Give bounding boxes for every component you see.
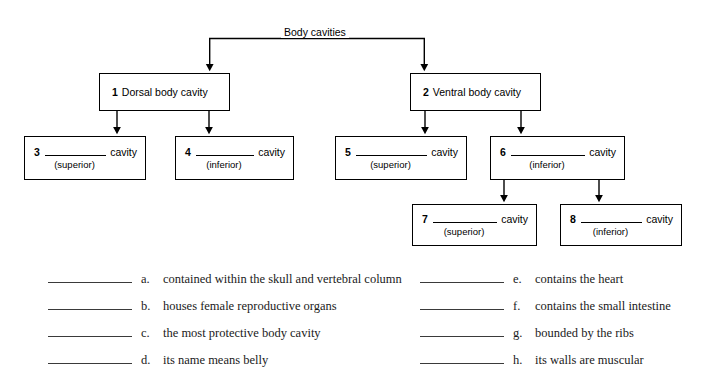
node-1-number: 1	[112, 86, 118, 98]
node-3-cavity-word: cavity	[110, 146, 137, 158]
answer-column-left: a. contained within the skull and verteb…	[48, 272, 414, 380]
node-4-hint: (inferior)	[185, 159, 285, 170]
answer-a-text: contained within the skull and vertebral…	[163, 272, 414, 287]
node-7-hint: (superior)	[422, 226, 528, 237]
node-7-cavity-word: cavity	[501, 213, 528, 225]
diagram-node-6[interactable]: 6cavity (inferior)	[490, 136, 625, 180]
node-7-blank[interactable]	[433, 213, 497, 223]
node-7-answer-line: 7cavity	[422, 213, 528, 225]
diagram-node-8[interactable]: 8cavity (inferior)	[560, 204, 682, 246]
answer-b-text: houses female reproductive organs	[163, 299, 414, 314]
answer-d-text: its name means belly	[163, 353, 414, 368]
answer-g-text: bounded by the ribs	[535, 326, 700, 341]
answer-bank: a. contained within the skull and verteb…	[0, 272, 707, 383]
answer-c-letter: c.	[141, 326, 163, 341]
node-6-number: 6	[500, 146, 506, 158]
node-1-text: 1Dorsal body cavity	[112, 86, 229, 98]
answer-h-text: its walls are muscular	[535, 353, 700, 368]
answer-h-letter: h.	[513, 353, 535, 368]
answer-g-letter: g.	[513, 326, 535, 341]
node-3-hint: (superior)	[34, 159, 137, 170]
node-1-name: Dorsal body cavity	[122, 86, 208, 98]
node-5-answer-line: 5cavity	[345, 146, 458, 158]
node-5-cavity-word: cavity	[431, 146, 458, 158]
node-8-hint: (inferior)	[570, 226, 673, 237]
answer-b-letter: b.	[141, 299, 163, 314]
answer-d-blank[interactable]	[48, 353, 132, 364]
node-5-blank[interactable]	[356, 146, 427, 156]
answer-item-d[interactable]: d. its name means belly	[48, 353, 414, 380]
answer-item-g[interactable]: g. bounded by the ribs	[420, 326, 700, 353]
answer-c-text: the most protective body cavity	[163, 326, 414, 341]
node-4-blank[interactable]	[196, 146, 254, 156]
node-2-name: Ventral body cavity	[433, 86, 521, 98]
answer-item-h[interactable]: h. its walls are muscular	[420, 353, 700, 380]
node-4-answer-line: 4cavity	[185, 146, 285, 158]
node-6-answer-line: 6cavity	[500, 146, 616, 158]
answer-f-blank[interactable]	[420, 299, 504, 310]
node-8-blank[interactable]	[581, 213, 642, 223]
answer-d-letter: d.	[141, 353, 163, 368]
answer-h-blank[interactable]	[420, 353, 504, 364]
answer-a-blank[interactable]	[48, 272, 132, 283]
node-3-number: 3	[34, 146, 40, 158]
node-6-hint: (inferior)	[500, 159, 616, 170]
diagram-node-2[interactable]: 2Ventral body cavity	[410, 73, 541, 111]
node-6-blank[interactable]	[511, 146, 585, 156]
node-7-number: 7	[422, 213, 428, 225]
node-8-number: 8	[570, 213, 576, 225]
diagram-node-1[interactable]: 1Dorsal body cavity	[99, 73, 230, 111]
node-8-cavity-word: cavity	[646, 213, 673, 225]
answer-e-text: contains the heart	[535, 272, 700, 287]
diagram-node-7[interactable]: 7cavity (superior)	[412, 204, 537, 246]
node-8-answer-line: 8cavity	[570, 213, 673, 225]
answer-a-letter: a.	[141, 272, 163, 287]
node-3-answer-line: 3cavity	[34, 146, 137, 158]
node-4-cavity-word: cavity	[258, 146, 285, 158]
answer-c-blank[interactable]	[48, 326, 132, 337]
root-node-label: Body cavities	[281, 26, 349, 38]
node-5-number: 5	[345, 146, 351, 158]
answer-b-blank[interactable]	[48, 299, 132, 310]
answer-item-c[interactable]: c. the most protective body cavity	[48, 326, 414, 353]
answer-item-f[interactable]: f. contains the small intestine	[420, 299, 700, 326]
node-5-hint: (superior)	[345, 159, 458, 170]
answer-e-letter: e.	[513, 272, 535, 287]
worksheet-page: Body cavities 1Dorsal body cavity 2Ventr…	[0, 0, 707, 383]
answer-e-blank[interactable]	[420, 272, 504, 283]
node-2-text: 2Ventral body cavity	[423, 86, 540, 98]
diagram-node-4[interactable]: 4cavity (inferior)	[175, 136, 294, 180]
answer-g-blank[interactable]	[420, 326, 504, 337]
node-6-cavity-word: cavity	[589, 146, 616, 158]
answer-f-letter: f.	[513, 299, 535, 314]
diagram-node-3[interactable]: 3cavity (superior)	[24, 136, 146, 180]
answer-column-right: e. contains the heart f. contains the sm…	[420, 272, 700, 380]
diagram-node-5[interactable]: 5cavity (superior)	[335, 136, 467, 180]
answer-item-b[interactable]: b. houses female reproductive organs	[48, 299, 414, 326]
answer-item-a[interactable]: a. contained within the skull and verteb…	[48, 272, 414, 299]
node-2-number: 2	[423, 86, 429, 98]
node-4-number: 4	[185, 146, 191, 158]
answer-item-e[interactable]: e. contains the heart	[420, 272, 700, 299]
answer-f-text: contains the small intestine	[535, 299, 700, 314]
node-3-blank[interactable]	[45, 146, 106, 156]
